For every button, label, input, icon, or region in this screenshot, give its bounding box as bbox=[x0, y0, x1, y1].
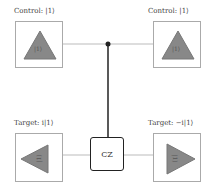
gate-label: CZ bbox=[101, 150, 113, 159]
state-text: |1⟩ bbox=[172, 45, 180, 52]
qubit-label-target-1: Target: i|1⟩ bbox=[14, 119, 53, 127]
qubit-box-target-1: |1⟩ bbox=[15, 133, 63, 182]
state-text: |1⟩ bbox=[172, 154, 179, 162]
cz-gate: CZ bbox=[90, 137, 124, 171]
state-text: |1⟩ bbox=[34, 45, 42, 52]
state-text: |1⟩ bbox=[35, 154, 42, 162]
qubit-label-control-2: Control: |1⟩ bbox=[148, 7, 189, 15]
qubit-box-control-2: |1⟩ bbox=[153, 21, 201, 68]
qubit-box-control-1: |1⟩ bbox=[15, 21, 63, 68]
qubit-label-target-2: Target: −i|1⟩ bbox=[148, 119, 193, 127]
control-dot bbox=[106, 42, 111, 47]
qubit-box-target-2: |1⟩ bbox=[153, 133, 201, 182]
qubit-label-control-1: Control: |1⟩ bbox=[14, 7, 55, 15]
